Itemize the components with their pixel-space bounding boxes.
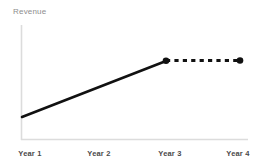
x-tick-label-year-1: Year 1 bbox=[18, 149, 41, 159]
data-point-year-4 bbox=[237, 57, 244, 64]
x-tick-label-year-3: Year 3 bbox=[158, 149, 181, 159]
x-tick-label-year-2: Year 2 bbox=[87, 149, 110, 159]
x-tick-label-year-4: Year 4 bbox=[226, 149, 249, 159]
data-point-year-3 bbox=[163, 58, 170, 65]
revenue-projection-chart: Revenue Year 1 Year 2 Year 3 Year 4 bbox=[0, 0, 256, 166]
series-actual-line bbox=[22, 61, 166, 117]
chart-plot-area bbox=[0, 0, 256, 166]
